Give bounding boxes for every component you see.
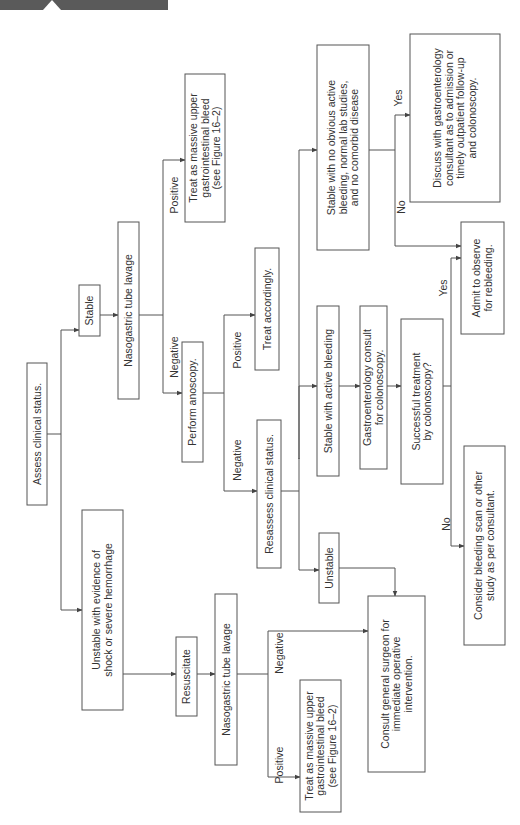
node-text-line: Unstable — [323, 547, 335, 589]
edge-label-no-success: No — [440, 517, 452, 531]
edge-label-negative-top: Negative — [168, 336, 180, 378]
node-stable: Stable — [79, 285, 100, 336]
connector-arrow — [339, 568, 395, 596]
node-text-line: gastrointestinal bleed — [199, 98, 211, 197]
node-text-line: Discuss with gastroenterology — [431, 48, 443, 188]
node-text-line: immediate operative — [390, 637, 402, 732]
node-consult-surgeon: Consult general surgeon forimmediate ope… — [368, 596, 425, 772]
node-text-line: Nasogastric tube lavage — [220, 623, 232, 736]
node-text-line: bleeding, normal lab studies, — [337, 81, 349, 215]
node-text-line: Stable with no obvious active — [325, 80, 337, 216]
node-treat-massive-bottom: Treat as massive uppergastrointestinal b… — [300, 680, 341, 812]
node-text-line: Admit to observe — [470, 238, 482, 317]
node-bleeding-scan: Consider bleeding scan or otherstudy as … — [464, 446, 505, 645]
node-text-line: Unstable with evidence of — [90, 550, 102, 670]
node-text-line: Nasogastric tube lavage — [122, 254, 134, 367]
node-text-line: Stable with active bleeding — [322, 329, 334, 453]
node-text-line: Treat accordingly. — [261, 268, 273, 350]
node-text-line: Resassess clinical status. — [263, 434, 275, 554]
edge-label-no-right: No — [395, 200, 407, 214]
node-discuss: Discuss with gastroenterologyconsultant … — [410, 34, 500, 202]
node-admit: Admit to observefor rebleeding. — [461, 222, 504, 334]
node-text-line: (see Figure 16–2) — [326, 705, 338, 788]
edge-label-yes-success: Yes — [437, 279, 449, 296]
node-unstable-shock: Unstable with evidence ofshock or severe… — [82, 510, 123, 710]
node-treat-accordingly: Treat accordingly. — [255, 248, 279, 370]
node-text-line: and colonoscopy. — [466, 78, 478, 159]
node-text-line: Successful treatment — [410, 352, 422, 450]
node-text-line: by colonoscopy? — [421, 362, 433, 440]
node-ng-lavage-unstable: Nasogastric tube lavage — [215, 594, 237, 765]
flowchart: Assess clinical status.StableUnstable wi… — [0, 0, 520, 825]
node-text-line: Treat as massive upper — [187, 93, 199, 203]
edge-label-positive-anoscopy: Positive — [231, 331, 243, 368]
node-text-line: Gastroenterology consult — [361, 329, 373, 446]
node-treat-massive-top: Treat as massive uppergastrointestinal b… — [185, 74, 225, 222]
node-anoscopy: Perform anoscopy. — [182, 342, 203, 462]
node-text-line: study as per consultant. — [484, 490, 496, 601]
node-assess: Assess clinical status. — [27, 363, 47, 505]
node-text-line: Stable — [83, 295, 95, 325]
node-unstable: Unstable — [319, 533, 339, 603]
node-text-line: Perform anoscopy. — [186, 358, 198, 445]
node-text-line: shock or severe hemorrhage — [102, 543, 114, 677]
node-reassess: Resassess clinical status. — [257, 420, 281, 568]
edge-label-yes-right: Yes — [392, 89, 404, 106]
node-text-line: timely outpatient follow-up — [454, 57, 466, 179]
node-text-line: Treat as massive upper — [303, 691, 315, 801]
node-text-line: Consult general surgeon for — [379, 619, 391, 749]
node-text-line: for colonoscopy. — [373, 350, 385, 426]
edge-label-positive-bottom: Positive — [273, 746, 285, 783]
node-text-line: Resuscitate — [180, 649, 192, 704]
node-text-line: gastrointestinal bleed — [314, 696, 326, 795]
node-gi-consult: Gastroenterology consultfor colonoscopy. — [360, 306, 387, 469]
node-resuscitate: Resuscitate — [176, 637, 197, 716]
edge-label-negative-anoscopy: Negative — [231, 439, 243, 481]
node-text-line: consultant as to admission or — [443, 50, 455, 186]
node-stable-active: Stable with active bleeding — [317, 306, 339, 476]
node-text-line: Consider bleeding scan or other — [472, 471, 484, 620]
node-successful: Successful treatmentby colonoscopy? — [401, 319, 443, 484]
node-text-line: Assess clinical status. — [31, 383, 43, 485]
edge-label-negative-bottom: Negative — [273, 632, 285, 674]
node-text-line: for rebleeding. — [482, 244, 494, 311]
edge-label-positive-top: Positive — [168, 176, 180, 213]
node-text-line: intervention. — [402, 655, 414, 712]
node-ng-lavage-stable: Nasogastric tube lavage — [118, 222, 139, 399]
node-text-line: and no comorbid disease — [348, 89, 360, 206]
node-text-line: (see Figure 16–2) — [210, 107, 222, 190]
node-stable-no-bleeding: Stable with no obvious activebleeding, n… — [317, 45, 369, 250]
